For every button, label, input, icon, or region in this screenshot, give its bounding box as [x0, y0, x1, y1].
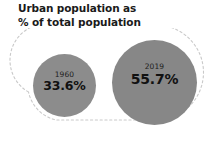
bubble-2019: 2019 55.7%	[112, 40, 197, 125]
bubble-2019-value: 55.7%	[112, 71, 197, 87]
chart-title-line-1: Urban population as	[18, 2, 208, 16]
bubble-1960-value: 33.6%	[33, 79, 96, 93]
bubble-2019-labels: 2019 55.7%	[112, 62, 197, 87]
bubble-1960-labels: 1960 33.6%	[33, 70, 96, 93]
urban-population-bubble-chart: Urban population as % of total populatio…	[0, 0, 217, 149]
bubble-1960: 1960 33.6%	[33, 54, 96, 117]
bubble-2019-year: 2019	[112, 62, 197, 71]
chart-title: Urban population as % of total populatio…	[18, 2, 208, 29]
chart-title-line-2: % of total population	[18, 16, 208, 30]
